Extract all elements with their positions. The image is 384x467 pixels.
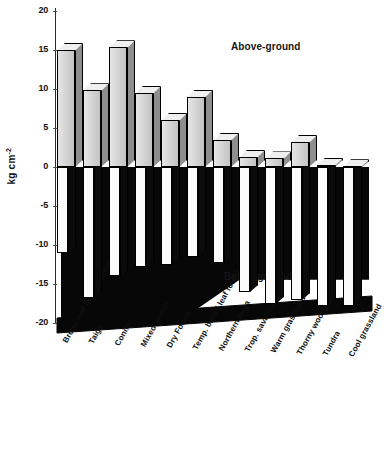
y-tick-label: 15	[22, 44, 48, 54]
bar-above-0-front-face	[57, 50, 75, 167]
bar-below-9-front-face	[291, 167, 302, 300]
bar-below-5-front-face	[187, 167, 198, 257]
y-tick-label: -10	[22, 239, 48, 249]
y-tick-label: -20	[22, 317, 48, 327]
bar-below-7-front-face	[239, 167, 250, 292]
category-label-11: Cool grassland	[347, 303, 384, 359]
bar-below-1-side-face	[94, 160, 102, 298]
y-tick-mark	[53, 284, 57, 285]
y-tick-label: -15	[22, 278, 48, 288]
bar-above-2-side-face	[127, 40, 135, 167]
bar-below-10-front-face	[317, 167, 328, 306]
bar-above-10-front-face	[317, 165, 335, 167]
bar-below-4-side-face	[172, 160, 180, 265]
bar-below-11-side-face	[354, 160, 362, 306]
y-tick-label: -5	[22, 200, 48, 210]
bar-below-8-side-face	[276, 160, 284, 304]
bar-above-1-front-face	[83, 90, 101, 167]
bar-above-4-side-face	[179, 113, 187, 167]
bar-below-6-side-face	[224, 160, 232, 263]
bar-below-0-front-face	[57, 167, 68, 253]
y-axis-title-text: kg cm	[6, 155, 17, 185]
bar-above-5-front-face	[187, 97, 205, 167]
bar-below-6-front-face	[213, 167, 224, 263]
category-label-1: Taiga	[87, 323, 105, 346]
y-tick-mark	[53, 323, 57, 324]
bar-above-5-side-face	[205, 90, 213, 167]
bar-below-2-front-face	[109, 167, 120, 276]
annotation-above-ground: Above-ground	[231, 41, 301, 52]
y-tick-label: 20	[22, 5, 48, 15]
bar-below-1-front-face	[83, 167, 94, 298]
bar-below-5-side-face	[198, 160, 206, 257]
bar-below-4-front-face	[161, 167, 172, 265]
category-label-4: Dry Forest	[165, 309, 193, 349]
bar-below-10-side-face	[328, 160, 336, 306]
bar-above-3-side-face	[153, 86, 161, 167]
bar-below-3-front-face	[135, 167, 146, 267]
y-axis-line	[55, 8, 56, 324]
bar-above-8-front-face	[265, 158, 283, 167]
bar-below-0-side-face	[68, 160, 76, 253]
bar-above-11-front-face	[343, 166, 361, 168]
category-label-10: Tundra	[321, 329, 342, 357]
bar-above-2-front-face	[109, 47, 127, 167]
bar-above-0-side-face	[75, 43, 83, 167]
bar-above-1-side-face	[101, 83, 109, 167]
bar-above-6-front-face	[213, 140, 231, 167]
bar-below-7-side-face	[250, 160, 258, 292]
bar-below-2-side-face	[120, 160, 128, 276]
category-label-2: Conifer	[113, 317, 135, 346]
bar-above-9-front-face	[291, 142, 309, 167]
bar-below-9-side-face	[302, 160, 310, 300]
y-axis-title-exponent: -2	[5, 148, 12, 155]
bar-above-3-front-face	[135, 93, 153, 167]
y-tick-mark	[53, 11, 57, 12]
y-tick-label: 0	[22, 161, 48, 171]
y-axis-title: kg cm-2	[5, 136, 17, 196]
bar-below-3-side-face	[146, 160, 154, 267]
bar-below-11-front-face	[343, 167, 354, 306]
bar-above-4-front-face	[161, 120, 179, 167]
y-tick-label: 10	[22, 83, 48, 93]
bar-above-7-front-face	[239, 157, 257, 167]
y-tick-label: 5	[22, 122, 48, 132]
bar-below-8-front-face	[265, 167, 276, 304]
